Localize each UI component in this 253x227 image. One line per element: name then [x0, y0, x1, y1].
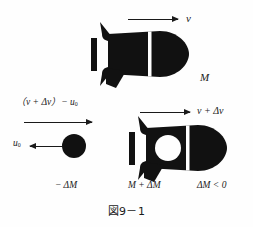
label-exhaust-velocity-subscript: 0: [18, 142, 21, 148]
figure-caption: 図9－1: [0, 202, 253, 218]
ejected-mass-blob: [62, 134, 86, 158]
rocket-after-ejection: [124, 112, 230, 184]
label-rocket-mass: M + ΔM: [128, 181, 161, 191]
label-mass-M: M: [200, 72, 209, 83]
label-ejected-mass: − ΔM: [55, 181, 77, 191]
label-exhaust-relative-velocity-text: （v + Δv）− u: [16, 97, 75, 107]
label-mass-condition: ΔM < 0: [197, 181, 226, 191]
exhaust-velocity-arrow: [30, 146, 62, 147]
exhaust-relative-velocity-arrow: [24, 122, 92, 123]
label-exhaust-relative-velocity: （v + Δv）− u0: [16, 98, 78, 108]
label-exhaust-velocity: u0: [13, 139, 21, 149]
figure-9-1: v M （v + Δv）− u0 u0 v + Δv: [0, 0, 253, 227]
rocket-before-ejection: [86, 18, 192, 90]
label-exhaust-relative-velocity-subscript: 0: [75, 101, 78, 107]
